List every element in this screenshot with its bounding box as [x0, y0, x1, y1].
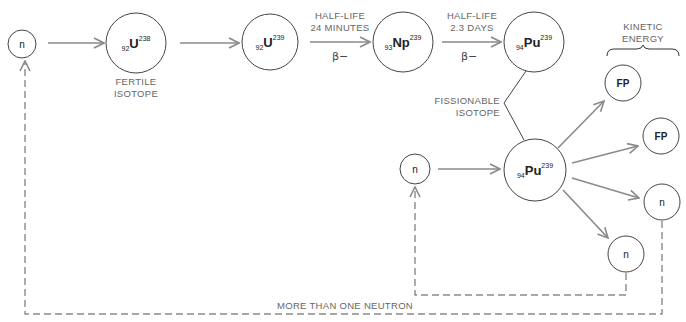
half-life-24min-caption: HALF-LIFE 24 MINUTES [300, 10, 380, 34]
half-life-2-3days-caption: HALF-LIFE 2.3 DAYS [432, 10, 512, 34]
fp2-label: FP [655, 131, 668, 142]
neutron-out2-label: n [623, 249, 629, 260]
arrow-pu-to-n2 [563, 190, 608, 238]
beta-decay-label-2: β− [461, 50, 477, 63]
neutron-out1-label: n [659, 197, 665, 208]
diagram-canvas [0, 0, 686, 322]
fp1-label: FP [617, 78, 630, 89]
fissionable-isotope-caption: FISSIONABLE ISOTOPE [420, 95, 500, 119]
kinetic-energy-caption: KINETIC ENERGY [608, 21, 678, 45]
fertile-isotope-caption: FERTILE ISOTOPE [106, 76, 166, 100]
u239-label: 92U239 [256, 33, 285, 51]
fissionable-bracket [504, 71, 526, 140]
u238-label: 92U238 [122, 34, 151, 52]
pu239-top-label: 94Pu239 [516, 33, 552, 51]
feedback-inner-loop [415, 187, 626, 295]
arrow-pu-to-fp1 [558, 101, 604, 148]
beta-decay-label-1: β− [332, 50, 348, 63]
pu239-bottom-label: 94Pu239 [517, 161, 553, 179]
neutron-start-label: n [19, 39, 25, 50]
arrow-pu-to-fp2 [572, 146, 638, 163]
kinetic-energy-brace [607, 45, 679, 56]
more-than-one-neutron-caption: MORE THAN ONE NEUTRON [270, 300, 420, 312]
arrow-pu-to-n1 [572, 178, 639, 198]
neutron-mid-label: n [412, 164, 418, 175]
np239-label: 93Np239 [385, 33, 422, 51]
